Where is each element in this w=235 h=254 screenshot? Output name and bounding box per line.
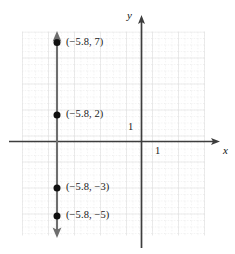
point-marker [54, 112, 61, 119]
point-label-2: (−5.8, 2) [66, 108, 103, 119]
y-axis-label: y [127, 9, 132, 21]
y-axis-tick-label-1: 1 [128, 121, 133, 132]
point-marker [54, 39, 61, 46]
x-axis-tick-label-1: 1 [155, 145, 160, 156]
point-marker [54, 213, 61, 220]
grid-major [22, 32, 205, 236]
x-axis-label: x [223, 144, 228, 156]
point-marker [54, 185, 61, 192]
point-label-3: (−5.8, −3) [66, 181, 109, 192]
point-label-1: (−5.8, 7) [66, 36, 103, 47]
coordinate-plane-figure: (−5.8, 7) (−5.8, 2) (−5.8, −3) (−5.8, −5… [0, 0, 235, 254]
point-label-4: (−5.8, −5) [66, 209, 109, 220]
graph-canvas [0, 0, 235, 254]
